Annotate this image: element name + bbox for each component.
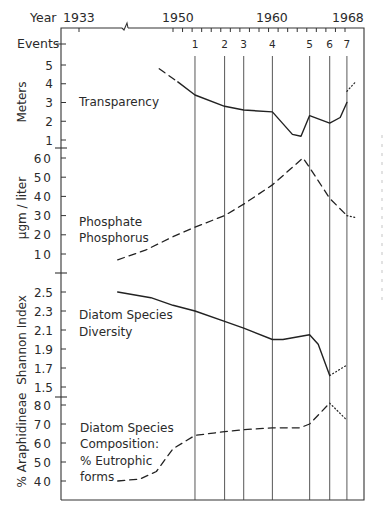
event-label-5: 5 [306,38,313,50]
ylabel-ugm-liter: μgm / liter [15,177,29,239]
event-label-7: 7 [344,38,351,50]
label-composition-1: Diatom Species [80,421,174,435]
ylabel-meters: Meters [15,81,29,122]
y-tick-label: 2 [45,115,53,129]
y-tick-label: 5 [45,59,53,73]
label-phosphate-2: Phosphorus [79,231,149,245]
y-tick-label: 50 [34,171,53,185]
panel-diversity: 2.52.32.11.91.71.5 [34,286,347,395]
phosphate-dotted-line [347,216,356,218]
transparency-dotted-line [347,82,356,91]
x-tick-1960: 1960 [256,10,288,25]
label-composition-2: Composition: [80,437,159,451]
axis-break-mark [122,23,128,30]
y-tick-label: 50 [34,456,53,470]
y-tick-label: 80 [34,399,53,413]
y-tick-label: 1.5 [34,381,53,395]
event-lines: 1234567 [192,38,351,500]
transparency-solid-line [178,82,347,136]
y-tick-label: 10 [34,248,53,262]
y-tick-label: 60 [34,437,53,451]
x-tick-1968: 1968 [332,10,364,25]
ylabel-shannon-index: Shannon Index [15,295,29,385]
events-label: Events [17,36,59,51]
y-tick-label: 40 [34,190,53,204]
label-composition-4: forms [80,470,114,484]
event-label-6: 6 [326,38,333,50]
x-axis-label: Year [29,10,57,25]
y-tick-label: 20 [34,228,53,242]
event-label-2: 2 [221,38,228,50]
composition-dotted-line [330,403,347,420]
label-phosphate-1: Phosphate [79,215,142,229]
event-label-1: 1 [192,38,199,50]
transparency-dashed-line [159,69,178,82]
label-diversity-1: Diatom Species [79,308,173,322]
event-label-4: 4 [269,38,276,50]
x-tick-1950: 1950 [162,10,194,25]
x-tick-1933: 1933 [63,10,95,25]
label-composition-3: % Eutrophic [80,454,152,468]
event-label-3: 3 [240,38,247,50]
y-tick-label: 1 [45,134,53,148]
ylabel-percent-araphidineae: % Araphidineae [15,393,29,488]
y-tick-label: 2.3 [34,305,53,319]
y-tick-label: 70 [34,418,53,432]
diversity-dotted-line [330,365,347,376]
y-tick-label: 1.7 [34,362,53,376]
limnology-time-series-chart: Year 1933 1950 1960 1968 Events 1234567 … [0,0,386,517]
y-tick-label: 60 [34,152,53,166]
y-tick-label: 1.9 [34,343,53,357]
phosphate-dashed-line [118,158,347,260]
y-tick-label: 30 [34,209,53,223]
y-tick-label: 2.1 [34,324,53,338]
y-tick-label: 4 [45,77,53,91]
y-tick-label: 3 [45,96,53,110]
y-tick-label: 40 [34,475,53,489]
label-diversity-2: Diversity [79,325,132,339]
year-tick-marks [173,28,345,32]
diversity-solid-line [118,292,330,376]
y-tick-label: 2.5 [34,286,53,300]
label-transparency: Transparency [78,95,159,109]
